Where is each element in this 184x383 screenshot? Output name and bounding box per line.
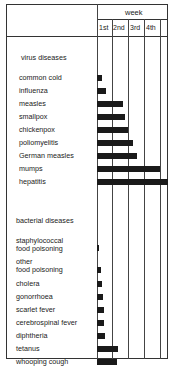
bar-mumps <box>97 166 160 172</box>
bar-diphtheria <box>97 333 105 339</box>
label-staph-line2: food poisoning <box>16 245 63 253</box>
group-label-bacterial: bacterial diseases <box>16 217 74 225</box>
week-tick-2nd: 2nd <box>113 24 125 31</box>
label-german-measles: German measles <box>19 152 74 160</box>
label-smallpox: smallpox <box>19 113 47 121</box>
label-whooping-cough: whooping cough <box>16 358 68 366</box>
bar-other-food-poisoning <box>97 267 101 273</box>
week-tick-1st: 1st <box>99 24 108 31</box>
gridline-week-3 <box>144 19 145 359</box>
bar-german-measles <box>97 153 137 159</box>
week-tick-3rd: 3rd <box>130 24 140 31</box>
label-mumps: mumps <box>19 165 43 173</box>
bar-hepatitis <box>97 179 168 185</box>
bar-cerebrospinal-fever <box>97 320 104 326</box>
bar-whooping-cough <box>97 359 117 365</box>
label-diphtheria: diphtheria <box>16 332 48 340</box>
label-gonorrhoea: gonorrhoea <box>16 293 53 301</box>
label-cerebrospinal-fever: cerebrospinal fever <box>16 319 77 327</box>
bar-tetanus <box>97 346 118 352</box>
label-influenza: influenza <box>19 87 48 95</box>
label-other-line2: food poisoning <box>16 266 63 274</box>
label-hepatitis: hepatitis <box>19 178 46 186</box>
bar-poliomyelitis <box>97 140 133 146</box>
label-common-cold: common cold <box>19 74 62 82</box>
gridline-week-1 <box>112 19 113 359</box>
bar-measles <box>97 101 123 107</box>
bar-influenza <box>97 88 106 94</box>
gridline-week-2 <box>128 19 129 359</box>
bar-chickenpox <box>97 127 128 133</box>
bar-smallpox <box>97 114 125 120</box>
gridline-week-4 <box>160 19 161 359</box>
bar-scarlet-fever <box>97 307 104 313</box>
week-subheader-line <box>97 19 168 20</box>
bar-cholera <box>97 281 102 287</box>
group-label-virus: virus diseases <box>21 54 67 62</box>
label-scarlet-fever: scarlet fever <box>16 306 55 314</box>
bar-gonorrhoea <box>97 294 103 300</box>
label-measles: measles <box>19 100 46 108</box>
bar-common-cold <box>97 75 102 81</box>
week-tick-4th: 4th <box>146 24 156 31</box>
label-cholera: cholera <box>16 280 40 288</box>
bar-staph-food-poisoning <box>97 245 99 251</box>
label-tetanus: tetanus <box>16 345 40 353</box>
week-axis-label: week <box>125 8 143 17</box>
label-poliomyelitis: poliomyelitis <box>19 139 58 147</box>
label-chickenpox: chickenpox <box>19 126 55 134</box>
